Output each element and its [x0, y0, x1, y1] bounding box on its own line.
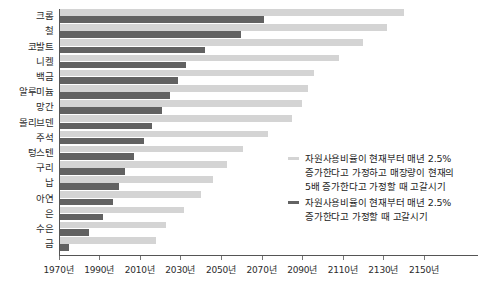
category-label: 납 — [0, 178, 54, 188]
category-label: 주석 — [0, 133, 54, 143]
x-axis-tick — [221, 256, 222, 261]
bar-current-reserves — [59, 138, 144, 145]
category-label: 철 — [0, 26, 54, 36]
bar-five-times-reserves — [59, 131, 268, 138]
bar-current-reserves — [59, 47, 205, 54]
category-label: 코발트 — [0, 42, 54, 52]
light-dash-marker — [288, 157, 299, 160]
category-label: 수은 — [0, 224, 54, 234]
legend-label: 자원사용비율이 현재부터 매년 2.5% 증가한다고 가정하고 매장량이 현재의… — [305, 152, 454, 193]
category-label: 몰리브덴 — [0, 118, 54, 128]
bar-five-times-reserves — [59, 222, 167, 229]
category-label: 니켈 — [0, 57, 54, 67]
x-axis-tick — [262, 256, 263, 261]
resource-depletion-bar-chart: 크롬철코발트니켈백금알루미늄망간몰리브덴주석텅스텐구리납아연은수은금1970년1… — [0, 0, 484, 285]
legend-entry: 자원사용비율이 현재부터 매년 2.5% 증가한다고 가정하고 매장량이 현재의… — [288, 152, 454, 193]
bar-five-times-reserves — [59, 161, 227, 168]
x-axis-tick — [424, 256, 425, 261]
x-axis-tick — [59, 256, 60, 261]
bar-current-reserves — [59, 199, 114, 206]
category-label: 은 — [0, 209, 54, 219]
bar-five-times-reserves — [59, 115, 292, 122]
bar-five-times-reserves — [59, 176, 213, 183]
bar-current-reserves — [59, 16, 264, 23]
category-label: 구리 — [0, 163, 54, 173]
bar-current-reserves — [59, 77, 179, 84]
category-label: 크롬 — [0, 11, 54, 21]
bar-current-reserves — [59, 153, 134, 160]
x-axis-tick — [383, 256, 384, 261]
bar-five-times-reserves — [59, 146, 244, 153]
category-label: 금 — [0, 239, 54, 249]
x-axis-tick — [180, 256, 181, 261]
bar-five-times-reserves — [59, 9, 404, 16]
dark-dash-marker — [288, 201, 299, 204]
bar-current-reserves — [59, 214, 104, 221]
bar-five-times-reserves — [59, 39, 364, 46]
bar-five-times-reserves — [59, 100, 303, 107]
bar-current-reserves — [59, 183, 120, 190]
bar-five-times-reserves — [59, 85, 309, 92]
legend-label: 자원사용비율이 현재부터 매년 2.5% 증가한다고 가정할 때 고갈시기 — [305, 196, 451, 224]
category-label: 아연 — [0, 194, 54, 204]
bar-current-reserves — [59, 123, 152, 130]
x-axis-tick-label: 2150년 — [399, 263, 449, 276]
bar-five-times-reserves — [59, 191, 201, 198]
bar-five-times-reserves — [59, 207, 185, 214]
bar-current-reserves — [59, 31, 242, 38]
x-axis-tick — [140, 256, 141, 261]
category-label: 망간 — [0, 102, 54, 112]
y-axis-line — [59, 9, 60, 255]
bar-current-reserves — [59, 168, 126, 175]
legend-entry: 자원사용비율이 현재부터 매년 2.5% 증가한다고 가정할 때 고갈시기 — [288, 196, 451, 224]
bar-five-times-reserves — [59, 70, 315, 77]
bar-current-reserves — [59, 62, 187, 69]
bar-five-times-reserves — [59, 237, 156, 244]
x-axis-tick — [99, 256, 100, 261]
x-axis-line — [59, 255, 479, 256]
bar-current-reserves — [59, 229, 89, 236]
category-label: 텅스텐 — [0, 148, 54, 158]
bar-five-times-reserves — [59, 24, 388, 31]
category-label: 백금 — [0, 72, 54, 82]
bar-five-times-reserves — [59, 55, 339, 62]
bar-current-reserves — [59, 244, 69, 251]
bar-current-reserves — [59, 92, 171, 99]
x-axis-tick — [302, 256, 303, 261]
x-axis-tick — [343, 256, 344, 261]
bar-current-reserves — [59, 107, 163, 114]
category-label: 알루미늄 — [0, 87, 54, 97]
